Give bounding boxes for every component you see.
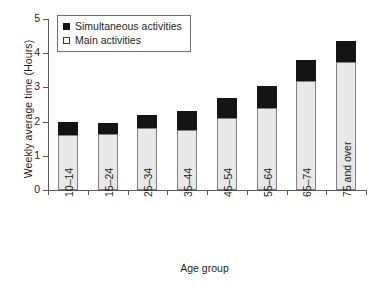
bar-segment-simultaneous [98, 123, 118, 133]
category-label-6: 65–74 [301, 168, 313, 197]
y-tick-label: 2 [34, 115, 40, 128]
y-tick-3: 3 [43, 87, 48, 88]
category-label-4: 45–54 [222, 168, 234, 197]
y-tick-label: 5 [34, 12, 40, 25]
category-label-2: 25–34 [142, 168, 154, 197]
legend-label-main: Main activities [75, 34, 141, 46]
x-tick [366, 190, 367, 195]
bar-segment-simultaneous [58, 122, 78, 136]
stacked-bar-chart: Weekly average time (Hours) 012345 10–14… [0, 0, 379, 288]
x-axis-title-text: Age group [180, 262, 228, 274]
x-tick [247, 190, 248, 195]
category-label-0: 10–14 [63, 168, 75, 197]
y-tick-4: 4 [43, 53, 48, 54]
y-tick-label: 3 [34, 80, 40, 93]
bar-segment-simultaneous [177, 111, 197, 130]
y-axis-title: Weekly average time (Hours) [22, 19, 34, 199]
x-tick [48, 190, 49, 195]
y-tick-2: 2 [43, 122, 48, 123]
category-label-5: 55–64 [262, 168, 274, 197]
bar-segment-simultaneous [296, 60, 316, 81]
x-axis-title: Age group [0, 262, 379, 274]
bar-segment-simultaneous [137, 115, 157, 129]
x-tick [88, 190, 89, 195]
x-tick [207, 190, 208, 195]
legend-item-main: Main activities [63, 33, 182, 47]
bar-segment-simultaneous [257, 86, 277, 108]
x-tick [167, 190, 168, 195]
x-tick [287, 190, 288, 195]
x-tick [326, 190, 327, 195]
bar-segment-simultaneous [336, 41, 356, 62]
y-tick-5: 5 [43, 19, 48, 20]
legend-item-simultaneous: Simultaneous activities [63, 19, 182, 33]
y-tick-1: 1 [43, 156, 48, 157]
y-axis-line [48, 19, 49, 191]
filled-square-icon [63, 23, 70, 30]
y-tick-label: 1 [34, 149, 40, 162]
open-square-icon [63, 37, 70, 44]
y-tick-label: 4 [34, 46, 40, 59]
category-label-1: 15–24 [103, 168, 115, 197]
x-tick [128, 190, 129, 195]
legend-label-simultaneous: Simultaneous activities [75, 20, 182, 32]
bar-segment-simultaneous [217, 98, 237, 119]
category-label-7: 75 and over [341, 142, 353, 197]
y-tick-label: 0 [34, 183, 40, 196]
category-label-3: 35–44 [182, 168, 194, 197]
legend: Simultaneous activities Main activities [57, 15, 191, 52]
